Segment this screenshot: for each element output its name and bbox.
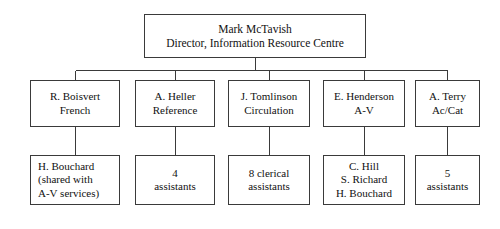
node-reference-staff-label: assistants [154, 180, 196, 193]
node-reference-staff-count: 4 [172, 167, 178, 180]
node-accat-department: Ac/Cat [432, 104, 463, 117]
node-circulation-staff-count: 8 clerical [249, 167, 290, 180]
node-director: Mark McTavish Director, Information Reso… [144, 14, 366, 58]
node-director-line-2: Director, Information Resource Centre [166, 36, 344, 50]
node-reference-person: A. Heller [155, 90, 196, 103]
node-reference-department: Reference [153, 104, 198, 117]
node-accat-staff-count: 5 [445, 167, 451, 180]
node-accat: A. Terry Ac/Cat [415, 80, 480, 127]
node-av-staff: C. Hill S. Richard H. Bouchard [323, 155, 405, 205]
node-accat-person: A. Terry [429, 90, 466, 103]
node-french-department: French [60, 104, 91, 117]
node-circulation-staff: 8 clerical assistants [228, 155, 310, 205]
node-accat-staff-label: assistants [427, 180, 469, 193]
node-french-staff-line-2: (shared with [38, 173, 93, 186]
node-french: R. Boisvert French [30, 80, 120, 127]
node-french-staff-line-1: H. Bouchard [38, 160, 94, 173]
node-french-staff-line-3: A-V services) [38, 187, 99, 200]
node-reference: A. Heller Reference [135, 80, 215, 127]
node-av-staff-line-3: H. Bouchard [336, 187, 392, 200]
node-av-department: A-V [354, 104, 374, 117]
node-director-line-1: Mark McTavish [218, 22, 292, 36]
node-accat-staff: 5 assistants [415, 155, 480, 205]
node-french-staff: H. Bouchard (shared with A-V services) [30, 155, 120, 205]
node-circulation-person: J. Tomlinson [241, 90, 297, 103]
node-french-person: R. Boisvert [50, 90, 100, 103]
node-circulation: J. Tomlinson Circulation [228, 80, 310, 127]
node-circulation-department: Circulation [244, 104, 294, 117]
node-av-staff-line-2: S. Richard [341, 173, 387, 186]
org-chart: Mark McTavish Director, Information Reso… [0, 0, 500, 229]
node-av: E. Henderson A-V [323, 80, 405, 127]
node-av-staff-line-1: C. Hill [349, 160, 379, 173]
node-av-person: E. Henderson [334, 90, 394, 103]
node-circulation-staff-label: assistants [248, 180, 290, 193]
node-reference-staff: 4 assistants [135, 155, 215, 205]
